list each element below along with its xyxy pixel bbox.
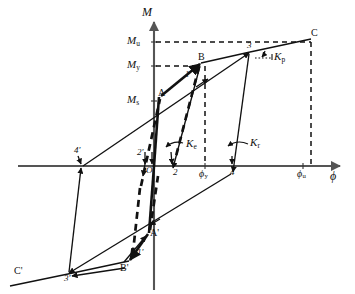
Kp-sub: p [282,55,286,64]
axis-group [18,22,340,290]
y-tick-Mu-sub: u [136,39,140,48]
moment-curvature-figure: M ϕ O Mu My Ms ϕy ϕu Ke Kr Kp A B C 1 2 … [0,0,355,294]
point-label-B-prime: B' [120,263,128,273]
arc-Ke [166,142,183,147]
point-label-C-prime: C' [14,266,22,276]
Kp-base: K [274,50,281,62]
origin-label: O [146,166,153,175]
point-label-4: 4 [230,168,235,177]
point-label-4-prime: 4' [74,146,80,155]
x-tick-phi-y-sub: y [204,172,207,179]
y-tick-Ms-sub: s [136,98,139,107]
y-tick-label-Ms: Ms [127,94,139,106]
positive-envelope-path [154,39,311,166]
x-tick-phi-u-sub: u [302,172,305,179]
x-tick-label-phi-y: ϕy [199,169,208,180]
x-axis-label: ϕ [330,170,336,182]
point-label-A-prime: A' [150,228,159,238]
Ke-sub: e [194,142,197,151]
Kr-base: K [250,136,257,148]
stiffness-label-Kr: Kr [250,137,260,149]
point-label-1-prime: 1' [137,248,143,257]
branch-4-prime-to-3 [83,53,249,166]
y-tick-Mu-base: M [127,34,136,46]
Kr-sub: r [258,141,261,150]
Ke-base: K [186,137,193,149]
arc-Kp [262,51,265,57]
x-tick-label-phi-u: ϕu [297,169,306,180]
y-tick-My-base: M [127,58,136,70]
point-label-2: 2 [173,168,178,177]
stiffness-label-Kp: Kp [274,51,285,63]
y-tick-My-sub: y [136,63,140,72]
segment-A-B [161,64,200,96]
diagram-canvas [0,0,355,294]
negative-envelope-path [10,166,154,286]
point-label-3-prime: 3' [64,274,70,283]
point-label-2-prime: 2' [137,148,143,157]
point-label-1: 1 [185,70,190,79]
point-label-A: A [158,88,165,98]
arrow-at-2 [171,152,172,164]
branch-3-prime-to-4-prime [69,168,81,272]
branch-3-to-4 [233,54,249,172]
y-tick-label-Mu: Mu [127,35,140,47]
arrow-at-4prime [78,156,81,164]
stiffness-label-Ke: Ke [186,138,197,150]
y-tick-label-My: My [127,59,140,71]
arc-Kr [228,142,248,146]
point-label-3: 3 [247,41,252,50]
dashed-lower-left [133,188,140,252]
y-axis-label: M [142,6,152,18]
point-label-B: B [198,52,205,62]
dashed-unloading-lines [133,67,199,252]
y-tick-Ms-base: M [127,93,136,105]
point-label-C: C [311,28,318,38]
